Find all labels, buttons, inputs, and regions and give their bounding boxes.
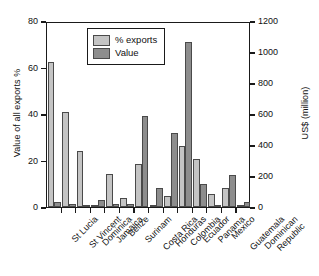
y-right-tick-mark: [250, 21, 255, 22]
legend-item: Value: [93, 47, 157, 59]
y-right-tick-label: 0: [258, 203, 292, 212]
bar-pct-exports: [48, 62, 55, 207]
bar-pct-exports: [150, 205, 157, 207]
legend-label: % exports: [115, 35, 157, 45]
bar-pct-exports: [62, 112, 69, 207]
y-left-tick-label: 20: [8, 157, 38, 166]
bar-pct-exports: [222, 188, 229, 207]
y-right-tick-mark: [250, 83, 255, 84]
bar-pct-exports: [120, 198, 127, 207]
y-right-tick-label: 400: [258, 141, 292, 150]
bar-value: [127, 204, 134, 207]
y-right-tick-label: 600: [258, 110, 292, 119]
y-right-tick-mark: [250, 207, 255, 208]
bar-pct-exports: [77, 151, 84, 207]
bar-value: [113, 204, 120, 207]
x-axis-tick-mark: [90, 208, 91, 213]
y-left-tick-label: 0: [8, 203, 38, 212]
bar-value: [142, 116, 149, 207]
x-axis-tick-mark: [104, 208, 105, 213]
chart-figure: Value of all exports % US$ (million) 020…: [0, 0, 319, 276]
x-axis-tick-mark: [75, 208, 76, 213]
legend-item: % exports: [93, 34, 157, 46]
x-axis-tick-mark: [221, 208, 222, 213]
y-right-tick-mark: [250, 114, 255, 115]
bar-value: [244, 202, 251, 207]
chart-legend: % exportsValue: [87, 28, 165, 65]
y-right-tick-label: 200: [258, 172, 292, 181]
bar-value: [69, 204, 76, 207]
y-left-tick-label: 60: [8, 64, 38, 73]
bar-pct-exports: [179, 146, 186, 207]
x-axis-tick-mark: [133, 208, 134, 213]
y-left-tick-label: 40: [8, 110, 38, 119]
bar-pct-exports: [208, 194, 215, 207]
x-axis-tick-mark: [163, 208, 164, 213]
bar-value: [171, 133, 178, 207]
y-left-tick-label: 80: [8, 17, 38, 26]
y-right-tick-label: 800: [258, 79, 292, 88]
bar-pct-exports: [106, 174, 113, 207]
x-axis-tick-mark: [206, 208, 207, 213]
bar-pct-exports: [135, 164, 142, 207]
bar-value: [200, 184, 207, 207]
bar-pct-exports: [164, 196, 171, 207]
y-right-tick-mark: [250, 176, 255, 177]
bar-value: [98, 200, 105, 207]
x-axis-tick-mark: [192, 208, 193, 213]
bar-pct-exports: [237, 205, 244, 207]
bar-value: [185, 42, 192, 207]
x-axis-tick-mark: [177, 208, 178, 213]
x-axis-tick-mark: [61, 208, 62, 213]
y-right-tick-label: 1000: [258, 48, 292, 57]
bar-pct-exports: [193, 159, 200, 207]
legend-swatch-value: [93, 48, 110, 59]
legend-swatch-pct: [93, 35, 110, 46]
y-axis-right-title: US$ (million): [300, 43, 310, 183]
bar-value: [156, 188, 163, 207]
y-right-tick-mark: [250, 52, 255, 53]
bar-value: [54, 202, 61, 207]
x-axis-tick-mark: [148, 208, 149, 213]
y-right-tick-mark: [250, 145, 255, 146]
bar-value: [215, 205, 222, 207]
legend-label: Value: [115, 48, 139, 58]
y-right-tick-label: 1200: [258, 17, 292, 26]
bar-pct-exports: [91, 205, 98, 207]
x-axis-category-label: DominicanRepublic: [262, 214, 306, 258]
x-axis-tick-mark: [235, 208, 236, 213]
bar-value: [229, 175, 236, 207]
bar-value: [83, 205, 90, 207]
x-axis-tick-mark: [119, 208, 120, 213]
